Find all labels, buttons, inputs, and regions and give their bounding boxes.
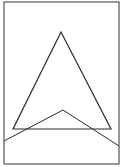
frame-border (4, 2, 119, 164)
inverted-v-line (4, 110, 119, 146)
diagram-canvas (0, 0, 126, 167)
triangle-shape (13, 32, 111, 129)
